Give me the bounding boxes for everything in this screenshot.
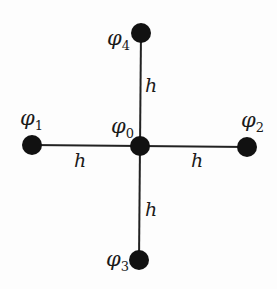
label-phi1: φ1: [20, 106, 43, 133]
edge-label-right: h: [191, 149, 203, 171]
label-phi4: φ4: [107, 26, 130, 53]
node-phi2: [237, 137, 257, 157]
node-phi3: [129, 250, 149, 270]
node-phi1: [22, 135, 42, 155]
label-phi0: φ0: [111, 114, 134, 141]
stencil-svg: φ4 φ1 φ0 φ2 φ3 h h h h: [0, 0, 277, 289]
edge-center-right: [140, 146, 247, 147]
edge-label-top: h: [145, 74, 157, 96]
node-phi4: [131, 23, 151, 43]
edge-center-left: [32, 145, 140, 146]
stencil-diagram: φ4 φ1 φ0 φ2 φ3 h h h h: [0, 0, 277, 289]
edge-label-left: h: [74, 149, 86, 171]
edge-center-top: [140, 33, 141, 146]
label-phi2: φ2: [241, 108, 264, 135]
edge-center-bottom: [139, 146, 140, 260]
edge-label-bottom: h: [145, 198, 157, 220]
label-phi3: φ3: [106, 247, 129, 274]
